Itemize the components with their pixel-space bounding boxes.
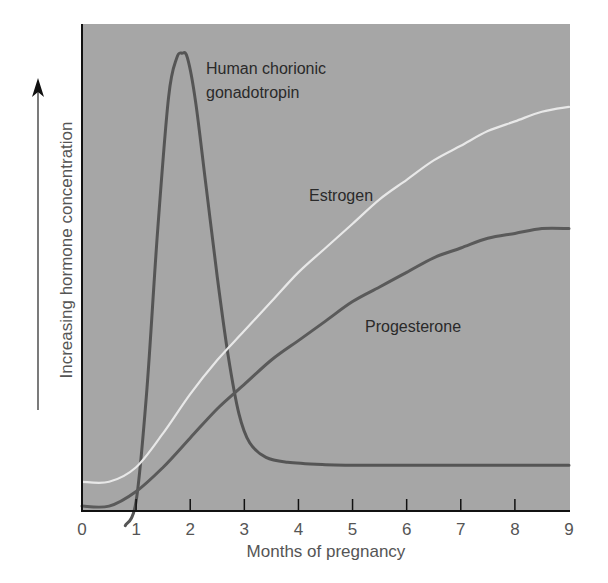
human-chorionic-gonadotropin-label: gonadotropin — [206, 84, 299, 101]
x-tick-label: 5 — [348, 520, 357, 539]
estrogen-label: Estrogen — [309, 187, 373, 204]
x-tick-label: 0 — [77, 520, 86, 539]
x-tick-label: 9 — [564, 520, 573, 539]
x-tick-label: 7 — [456, 520, 465, 539]
x-tick-label: 3 — [240, 520, 249, 539]
hormone-chart: 0123456789 Human chorionicgonadotropinEs… — [0, 0, 608, 583]
x-tick-label: 8 — [510, 520, 519, 539]
y-axis-title: Increasing hormone concentration — [57, 121, 76, 378]
x-axis-title: Months of pregnancy — [247, 542, 406, 561]
x-axis-tick-labels: 0123456789 — [77, 520, 573, 539]
progesterone-label: Progesterone — [365, 318, 461, 335]
x-tick-label: 2 — [185, 520, 194, 539]
x-tick-label: 1 — [131, 520, 140, 539]
human-chorionic-gonadotropin-label: Human chorionic — [206, 60, 326, 77]
x-tick-label: 6 — [402, 520, 411, 539]
x-tick-label: 4 — [294, 520, 303, 539]
